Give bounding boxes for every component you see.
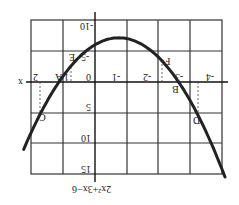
x-tick-1: -1 — [112, 72, 120, 82]
y-tick-5: 5 — [86, 102, 91, 112]
point-D: D — [193, 115, 200, 125]
x-tick-4: -4 — [206, 72, 214, 82]
point-C: C — [39, 112, 46, 122]
equation-label: 2x²+3x−6 — [72, 184, 111, 194]
point-E: E — [69, 52, 75, 62]
point-F: F — [165, 56, 171, 66]
point-B: B — [172, 84, 179, 94]
x-tick-3: -3 — [175, 72, 183, 82]
y-tick-neg10: -10 — [80, 21, 93, 31]
point-A: A — [55, 72, 62, 82]
y-tick-15: 15 — [81, 164, 91, 174]
parabola-chart — [0, 0, 239, 205]
y-tick-neg5: -5 — [81, 52, 89, 62]
parabola-curve — [24, 38, 225, 177]
x-tick-pos2: 2 — [33, 72, 38, 82]
y-tick-10: 10 — [81, 133, 91, 143]
x-axis-label: x — [18, 77, 23, 87]
x-tick-0: 0 — [86, 72, 91, 82]
x-tick-pos1: 1 — [64, 72, 69, 82]
grid — [31, 20, 222, 174]
x-tick-2: -2 — [143, 72, 151, 82]
